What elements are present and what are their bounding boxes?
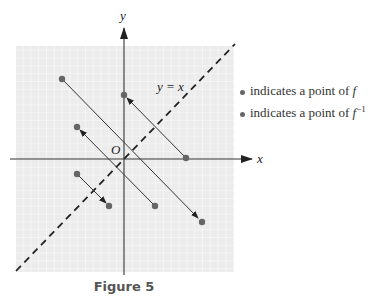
graph: y x O y = x: [0, 0, 372, 301]
legend-text: indicates a point of: [250, 105, 353, 120]
legend-text: indicates a point of: [250, 83, 353, 98]
figure-caption: Figure 5: [0, 279, 248, 294]
point-dot-icon: [240, 112, 245, 117]
origin-label: O: [111, 142, 121, 157]
identity-line-label: y = x: [155, 79, 184, 94]
legend-sup: −1: [356, 104, 366, 114]
point-dot-icon: [240, 90, 245, 95]
legend-item-f: indicates a point of f: [240, 83, 356, 99]
y-axis-label: y: [118, 8, 126, 23]
x-axis-label: x: [256, 151, 263, 166]
legend-func: f: [353, 83, 357, 98]
legend-item-f-inverse: indicates a point of f−1: [240, 104, 366, 121]
